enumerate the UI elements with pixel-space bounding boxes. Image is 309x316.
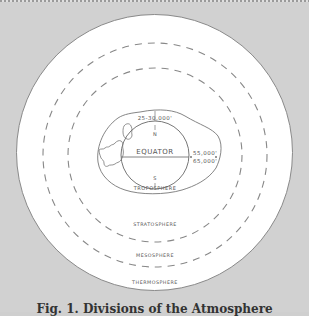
- label-south: S: [153, 175, 157, 181]
- label-troposphere: TROPOSPHERE: [133, 185, 177, 191]
- label-equatorial-altitude-1: 55,000': [193, 150, 217, 156]
- label-mesosphere: MESOSPHERE: [136, 253, 174, 258]
- equatorial-marker-dot: [190, 156, 192, 158]
- figure-caption: Fig. 1. Divisions of the Atmosphere: [0, 302, 309, 316]
- label-thermosphere: THERMOSPHERE: [131, 280, 178, 285]
- label-equatorial-altitude-2: 65,000': [193, 158, 217, 164]
- label-north: N: [153, 131, 157, 137]
- label-equator: EQUATOR: [136, 148, 173, 156]
- label-polar-altitude: 25-30,000': [138, 115, 173, 121]
- label-stratosphere: STRATOSPHERE: [133, 222, 177, 227]
